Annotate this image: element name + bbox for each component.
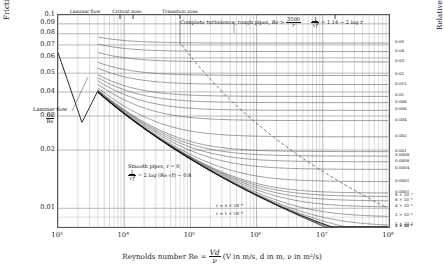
- right-tick-14: 0.0002: [395, 179, 409, 183]
- right-axis-ticks: 0.050.040.030.020.0150.010.0080.0060.004…: [392, 0, 444, 280]
- right-tick-4: 0.015: [395, 82, 407, 86]
- right-tick-1: 0.04: [395, 49, 404, 53]
- complete-turbulence-annotation: Complete turbulence, rough pipes, Re > 3…: [180, 17, 363, 28]
- right-tick-7: 0.006: [395, 107, 407, 111]
- smooth-pipes-annotation: Smooth pipes, r = 0 1 √f = 2 log (Re √f)…: [128, 163, 191, 181]
- right-tick-19: 2 × 10⁻⁵: [395, 213, 413, 217]
- y-tick-9: 0.01: [3, 204, 55, 211]
- right-tick-3: 0.02: [395, 72, 404, 76]
- gridlines: [58, 15, 389, 227]
- right-tick-6: 0.008: [395, 100, 407, 104]
- right-tick-8: 0.004: [395, 118, 407, 122]
- right-tick-0: 0.05: [395, 40, 404, 44]
- right-tick-12: 0.0006: [395, 159, 409, 163]
- moody-chart-plot-area: [57, 14, 390, 228]
- y-tick-0: 0.1: [3, 11, 55, 18]
- laminar-flow-annotation: Laminar flow 64 Re: [33, 107, 67, 124]
- y-tick-4: 0.06: [3, 53, 55, 60]
- y-tick-5: 0.05: [3, 69, 55, 76]
- zone-label-transition: Transition zone: [162, 9, 198, 14]
- y-tick-1: 0.09: [3, 19, 55, 26]
- y-tick-3: 0.07: [3, 41, 55, 48]
- x-axis-label: Reynolds number Re = Vd ν (V in m/s, d i…: [0, 249, 444, 265]
- right-tick-13: 0.0004: [395, 166, 409, 170]
- x-tick-1: 10⁴: [118, 231, 129, 239]
- right-axis-label: Relative roughness r = ε d (ε in mm, d i…: [432, 0, 444, 30]
- y-tick-6: 0.04: [3, 88, 55, 95]
- x-axis-ticks: 10³10⁴10⁵10⁶10⁷10⁸: [0, 231, 444, 243]
- right-tick-9: 0.002: [395, 134, 407, 138]
- inner-roughness-label-2: r = 1 × 10⁻⁶: [216, 211, 243, 216]
- zone-label-laminar: Laminar flow: [70, 9, 101, 14]
- right-tick-2: 0.03: [395, 59, 404, 63]
- x-tick-3: 10⁶: [250, 231, 261, 239]
- right-tick-5: 0.01: [395, 93, 404, 97]
- x-axis-formula: Vd ν: [209, 249, 221, 265]
- inner-roughness-label-1: r = 5 × 10⁻⁶: [216, 203, 243, 208]
- right-tick-22: 1 × 10⁻⁶: [395, 224, 413, 228]
- right-tick-17: 6 × 10⁻⁵: [395, 198, 413, 202]
- x-tick-2: 10⁵: [184, 231, 195, 239]
- x-tick-4: 10⁷: [316, 231, 327, 239]
- roughness-curves: [98, 37, 388, 227]
- moody-curves: [58, 15, 389, 227]
- right-tick-18: 4 × 10⁻⁵: [395, 204, 413, 208]
- x-tick-0: 10³: [51, 231, 62, 239]
- laminar-equation: 64 Re: [46, 113, 55, 124]
- y-tick-8: 0.02: [3, 146, 55, 153]
- right-tick-11: 0.0008: [395, 153, 409, 157]
- laminar-line: [58, 52, 388, 227]
- zone-label-critical: Critical zone: [112, 9, 142, 14]
- y-tick-2: 0.08: [3, 29, 55, 36]
